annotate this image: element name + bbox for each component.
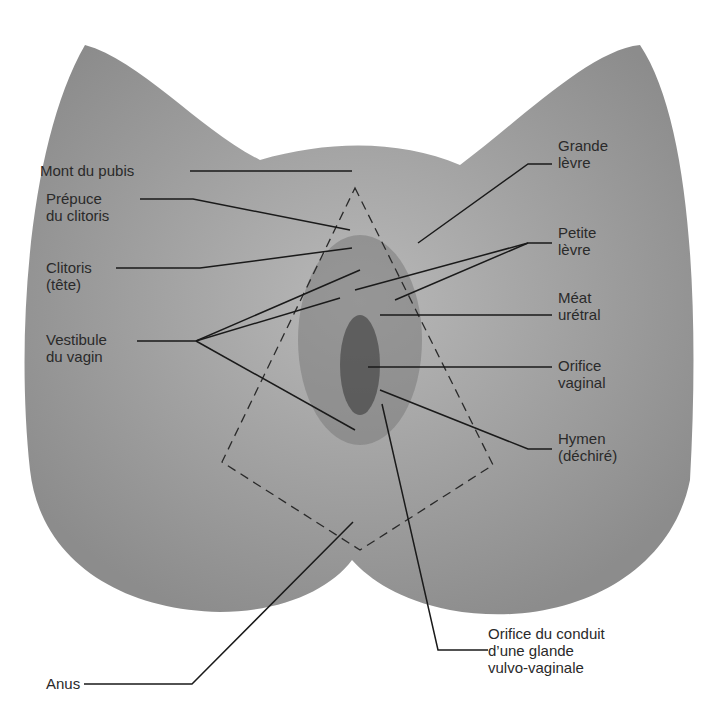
label-prepuce: Prépuce du clitoris <box>46 190 109 224</box>
label-petite-levre: Petite lèvre <box>558 224 596 258</box>
label-glande: Orifice du conduit d’une glande vulvo-va… <box>488 625 605 676</box>
label-orifice-vaginal: Orifice vaginal <box>558 357 606 391</box>
label-hymen: Hymen (déchiré) <box>558 430 617 464</box>
label-mont-pubis: Mont du pubis <box>40 162 134 179</box>
label-vestibule: Vestibule du vagin <box>46 331 107 365</box>
label-grande-levre: Grande lèvre <box>558 137 608 171</box>
central-inner <box>340 315 380 415</box>
label-clitoris: Clitoris (tête) <box>46 259 92 293</box>
label-anus: Anus <box>46 675 80 692</box>
label-meat: Méat urétral <box>558 289 601 323</box>
